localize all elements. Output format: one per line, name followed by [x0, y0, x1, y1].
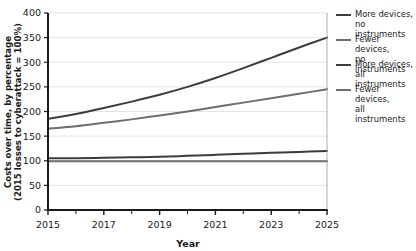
legend-item[interactable]: Fewer devices, all instruments: [336, 85, 416, 125]
legend-swatch-icon: [336, 64, 351, 66]
chart-legend: More devices, no instrumentsFewer device…: [336, 4, 416, 108]
y-tick-label: 250: [23, 81, 41, 92]
y-tick-label: 150: [23, 131, 41, 142]
x-tick-label: 2015: [36, 219, 60, 230]
y-tick-label: 100: [23, 155, 41, 166]
series-line: [48, 38, 327, 119]
x-tick-label: 2023: [259, 219, 283, 230]
y-tick-label: 50: [29, 180, 41, 191]
legend-item-label: Fewer devices, all instruments: [355, 85, 416, 125]
series-line: [48, 89, 327, 128]
x-tick-label: 2019: [148, 219, 172, 230]
y-tick-label: 0: [35, 204, 41, 215]
y-axis-title-line2: (2015 losses to cyberattack = 100%): [13, 23, 23, 201]
legend-swatch-icon: [336, 89, 351, 91]
series-line: [48, 151, 327, 158]
y-tick-label: 200: [23, 106, 41, 117]
y-tick-labels: 050100150200250300350400: [23, 7, 41, 215]
x-tick-label: 2021: [203, 219, 227, 230]
y-tick-label: 400: [23, 7, 41, 18]
x-tick-labels: 201520172019202120232025: [36, 219, 339, 230]
y-tick-label: 300: [23, 57, 41, 68]
x-axis-title: Year: [175, 238, 200, 249]
gridlines: [48, 13, 327, 185]
chart-figure: 050100150200250300350400 201520172019202…: [0, 0, 416, 251]
x-tick-label: 2017: [92, 219, 116, 230]
data-series-group: [48, 38, 327, 162]
legend-swatch-icon: [336, 39, 351, 41]
y-tick-label: 350: [23, 32, 41, 43]
x-tick-label: 2025: [315, 219, 339, 230]
legend-swatch-icon: [336, 14, 351, 16]
y-axis-title-line1: Costs over time, by percentage: [3, 36, 13, 188]
